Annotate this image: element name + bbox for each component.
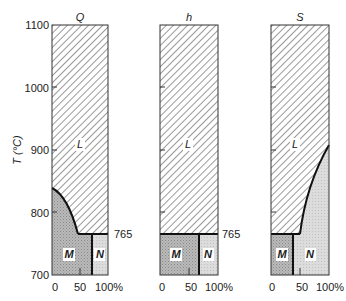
panel-q-label-l: L <box>77 138 83 150</box>
panel-q: Q L M N 0 50 100% 765 <box>52 11 132 293</box>
panel-h: h L M N 0 50 100% 765 <box>159 11 240 293</box>
panel-s-label-n: N <box>306 248 315 260</box>
panel-h-x-0: 0 <box>159 281 165 293</box>
y-tick-700: 700 <box>31 269 49 281</box>
phase-diagram-figure: T (°C) 1100 1000 900 800 700 Q L M N 0 5… <box>0 0 346 301</box>
panel-h-x-50: 50 <box>185 281 197 293</box>
panel-h-label-l: L <box>185 138 191 150</box>
panel-q-label-n: N <box>96 248 105 260</box>
panel-s-label-m: M <box>277 248 287 260</box>
panel-h-x-100: 100% <box>205 281 233 293</box>
panel-s-x-100: 100% <box>316 281 344 293</box>
y-axis-label: T (°C) <box>11 135 23 165</box>
panel-h-765-label: 765 <box>222 228 240 240</box>
panel-s-title: S <box>296 11 304 23</box>
panel-h-title: h <box>186 11 192 23</box>
panel-q-x-50: 50 <box>74 281 86 293</box>
y-tick-900: 900 <box>31 144 49 156</box>
panel-s-label-l: L <box>292 138 298 150</box>
panel-q-title: Q <box>76 11 85 23</box>
panel-q-x-0: 0 <box>52 281 58 293</box>
y-tick-1100: 1100 <box>25 19 49 31</box>
panel-h-label-n: N <box>204 248 213 260</box>
panel-s: S L M N 0 50 100% <box>269 11 344 293</box>
panel-q-765-label: 765 <box>114 228 132 240</box>
y-tick-1000: 1000 <box>25 82 49 94</box>
panel-s-x-50: 50 <box>296 281 308 293</box>
y-tick-800: 800 <box>31 207 49 219</box>
panel-s-x-0: 0 <box>269 281 275 293</box>
panel-h-label-m: M <box>171 248 181 260</box>
panel-q-label-m: M <box>64 248 74 260</box>
panel-q-x-100: 100% <box>95 281 123 293</box>
